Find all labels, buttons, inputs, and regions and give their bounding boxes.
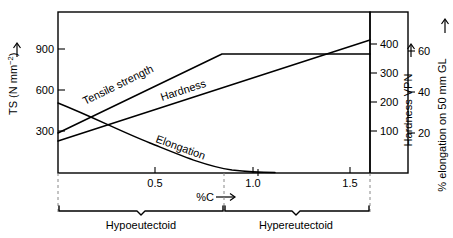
region-label-hypoeutectoid: Hypoeutectoid bbox=[106, 219, 176, 231]
curve-label-tensile-strength: Tensile strength bbox=[81, 62, 156, 107]
left-axis-title-exponent: −2 bbox=[6, 56, 15, 65]
x-tick-1-0: 1.0 bbox=[245, 177, 260, 189]
elongation-axis-arrow-icon bbox=[442, 19, 449, 33]
region-label-hypereutectoid: Hypereutectoid bbox=[259, 219, 333, 231]
curve-label-tensile-strength-text: Tensile strength bbox=[81, 62, 156, 107]
elongation-axis-title: % elongation on 50 mm GL bbox=[436, 58, 448, 191]
hardness-tick-200: 200 bbox=[380, 96, 398, 108]
left-axis-ticks bbox=[58, 49, 65, 131]
x-axis-title: %C bbox=[196, 191, 214, 203]
bracket-hypereutectoid bbox=[225, 206, 369, 215]
hardness-axis-title-text: Hardness VPN bbox=[402, 74, 414, 147]
x-tick-0-5: 0.5 bbox=[147, 177, 162, 189]
x-axis-arrow-icon bbox=[216, 194, 235, 201]
left-tick-300: 300 bbox=[36, 125, 54, 137]
hardness-tick-400: 400 bbox=[380, 38, 398, 50]
hardness-axis-title: Hardness VPN bbox=[402, 74, 414, 147]
left-tick-900: 900 bbox=[36, 43, 54, 55]
left-axis-title-main: TS (N mm bbox=[7, 65, 19, 115]
bracket-hypoeutectoid bbox=[59, 206, 223, 215]
x-tick-1-5: 1.5 bbox=[342, 177, 357, 189]
elongation-tick-40: 40 bbox=[418, 86, 430, 98]
chart-canvas: 900 600 300 TS (N mm−2) 400 300 200 100 … bbox=[0, 0, 453, 238]
elongation-axis-title-text: % elongation on 50 mm GL bbox=[436, 58, 448, 191]
left-tick-600: 600 bbox=[36, 84, 54, 96]
elongation-tick-20: 20 bbox=[418, 127, 430, 139]
hardness-tick-100: 100 bbox=[380, 125, 398, 137]
hardness-tick-300: 300 bbox=[380, 67, 398, 79]
svg-text:TS (N mm−2): TS (N mm−2) bbox=[6, 53, 19, 115]
steel-property-chart: 900 600 300 TS (N mm−2) 400 300 200 100 … bbox=[0, 0, 453, 238]
left-axis-title: TS (N mm−2) bbox=[6, 53, 19, 115]
hardness-axis-ticks bbox=[370, 44, 377, 131]
elongation-tick-60: 60 bbox=[418, 45, 430, 57]
